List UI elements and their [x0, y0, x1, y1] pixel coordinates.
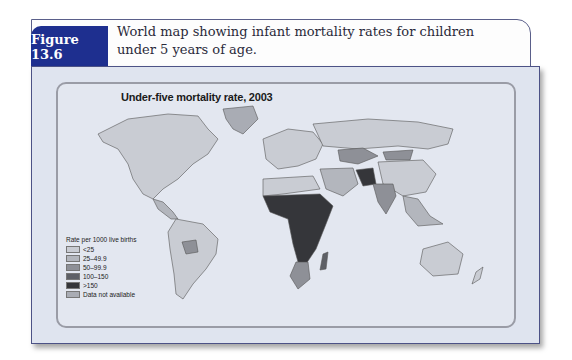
australia [420, 242, 463, 276]
russia [313, 119, 453, 149]
figure-caption: World map showing infant mortality rates… [117, 23, 517, 59]
legend-label: <25 [83, 246, 94, 253]
legend-item: >150 [66, 281, 136, 289]
legend-item: <25 [66, 245, 136, 253]
legend-title: Rate per 1000 live births [66, 236, 136, 243]
legend-swatch [66, 255, 80, 262]
legend-label: >150 [83, 282, 98, 289]
legend-swatch [66, 246, 80, 253]
southern-africa [290, 262, 310, 289]
afghanistan-pakistan [356, 168, 376, 186]
legend-label: 25–49.9 [83, 255, 107, 262]
middle-east [320, 168, 358, 196]
central-america [153, 199, 178, 219]
new-zealand [472, 267, 483, 284]
legend-item: 25–49.9 [66, 254, 136, 262]
madagascar [320, 252, 328, 270]
mongolia [383, 150, 413, 160]
map-frame: Under-five mortality rate, 2003 [56, 82, 516, 328]
south-america [168, 219, 218, 299]
north-america [98, 114, 218, 199]
india [373, 184, 396, 214]
figure-panel: Under-five mortality rate, 2003 [31, 66, 540, 344]
sub-saharan-africa [263, 194, 333, 264]
legend-label: Data not available [83, 291, 135, 298]
north-africa [263, 176, 320, 196]
figure-label: Figure 13.6 [31, 26, 108, 68]
legend-swatch [66, 291, 80, 298]
central-asia [338, 148, 378, 164]
legend-item: Data not available [66, 290, 136, 298]
legend-swatch [66, 273, 80, 280]
map-legend: Rate per 1000 live births <25 25–49.9 50… [66, 236, 136, 299]
southeast-asia [403, 196, 443, 226]
greenland [223, 106, 258, 134]
legend-item: 50–99.9 [66, 263, 136, 271]
legend-label: 50–99.9 [83, 264, 107, 271]
legend-item: 100–150 [66, 272, 136, 280]
europe [263, 129, 323, 169]
legend-label: 100–150 [83, 273, 108, 280]
legend-swatch [66, 282, 80, 289]
legend-swatch [66, 264, 80, 271]
